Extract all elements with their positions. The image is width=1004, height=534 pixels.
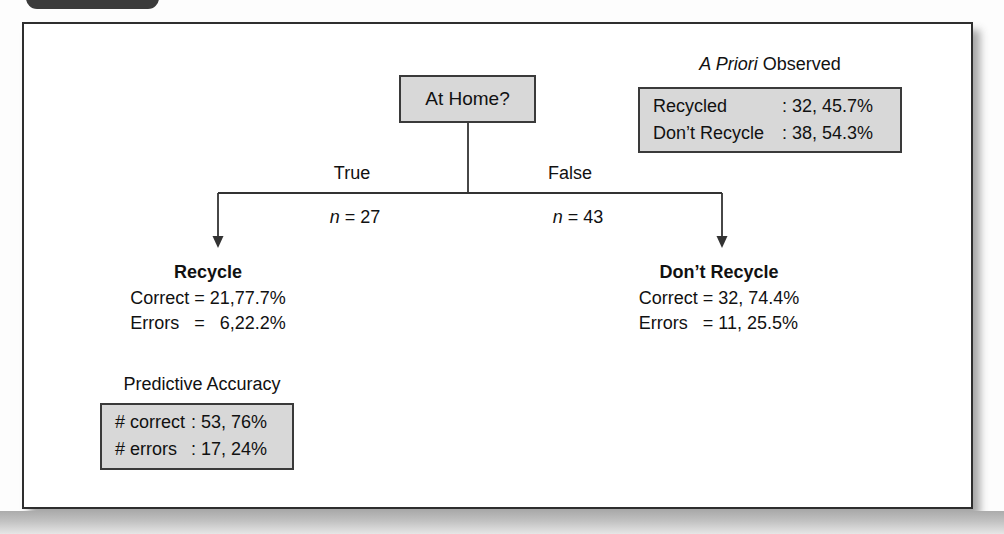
leaf-node-dont-recycle: Don’t Recycle Correct = 32, 74.4% Errors… [639,260,800,336]
n-value: = 43 [563,207,604,227]
root-node-at-home: At Home? [399,75,536,123]
n-variable: n [330,207,340,227]
predictive-row-errors: # errors: 17, 24% [115,436,284,463]
a-priori-box: Recycled: 32, 45.7% Don’t Recycle: 38, 5… [638,87,902,153]
leaf-title: Don’t Recycle [639,260,800,285]
n-value: = 27 [340,207,381,227]
branch-true-n: n = 27 [330,207,381,228]
a-priori-title: A Priori Observed [699,54,840,75]
branch-false-label: False [548,163,592,184]
row-value: : 32, 45.7% [782,93,873,120]
leaf-correct-stat: Correct = 32, 74.4% [639,286,800,311]
n-variable: n [553,207,563,227]
leaf-errors-stat: Errors = 6,22.2% [130,311,286,336]
row-value: : 53, 76% [191,409,267,436]
a-priori-title-italic: A Priori [699,54,757,74]
leaf-correct-stat: Correct = 21,77.7% [130,286,286,311]
page-corner-tab [26,0,159,9]
predictive-accuracy-box: # correct: 53, 76% # errors: 17, 24% [100,403,294,470]
a-priori-title-rest: Observed [758,54,841,74]
branch-false-n: n = 43 [553,207,604,228]
root-node-label: At Home? [425,88,509,110]
a-priori-row-dont-recycle: Don’t Recycle: 38, 54.3% [653,120,892,147]
branch-true-label: True [334,163,370,184]
scanned-page: At Home? True False n = 27 n = 43 Recycl… [0,0,1004,534]
leaf-node-recycle: Recycle Correct = 21,77.7% Errors = 6,22… [130,260,286,336]
a-priori-row-recycled: Recycled: 32, 45.7% [653,93,892,120]
predictive-row-correct: # correct: 53, 76% [115,409,284,436]
leaf-errors-stat: Errors = 11, 25.5% [639,311,800,336]
row-label: Recycled [653,93,782,120]
row-label: # correct [115,409,191,436]
row-label: # errors [115,436,191,463]
row-label: Don’t Recycle [653,120,782,147]
page-bottom-shadow [0,511,1004,534]
row-value: : 17, 24% [191,436,267,463]
row-value: : 38, 54.3% [782,120,873,147]
predictive-accuracy-title: Predictive Accuracy [123,374,280,395]
leaf-title: Recycle [130,260,286,285]
